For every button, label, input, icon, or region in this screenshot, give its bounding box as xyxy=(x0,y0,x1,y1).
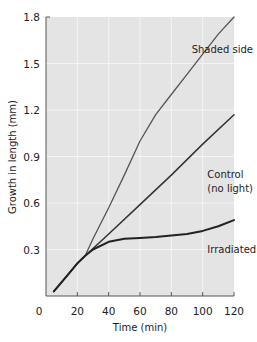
annotation-label: Control xyxy=(207,169,243,180)
annotation-label: (no light) xyxy=(207,183,253,194)
y-tick-label: 1.8 xyxy=(23,11,40,23)
x-tick-label: 120 xyxy=(224,305,244,317)
x-tick-label: 0 xyxy=(36,305,43,317)
y-tick-label: 0.6 xyxy=(23,197,40,209)
y-tick-label: 0.9 xyxy=(23,151,40,163)
y-tick-label: 1.2 xyxy=(23,104,40,116)
annotation-label: Irradiated side xyxy=(207,244,257,255)
y-tick-labels: 0.30.60.91.21.51.8 xyxy=(23,11,40,256)
x-axis-label: Time (min) xyxy=(112,322,167,333)
annotation-label: Shaded side xyxy=(192,44,253,55)
growth-chart: 0.30.60.91.21.51.8 020406080100120 Time … xyxy=(0,0,257,342)
y-tick-label: 0.3 xyxy=(23,244,40,256)
x-tick-label: 60 xyxy=(133,305,146,317)
x-tick-labels: 020406080100120 xyxy=(36,305,244,317)
y-axis-label: Growth in length (mm) xyxy=(7,100,18,214)
y-tick-label: 1.5 xyxy=(23,58,40,70)
x-tick-label: 100 xyxy=(193,305,213,317)
x-tick-label: 40 xyxy=(102,305,115,317)
x-tick-label: 80 xyxy=(165,305,178,317)
x-tick-label: 20 xyxy=(71,305,84,317)
